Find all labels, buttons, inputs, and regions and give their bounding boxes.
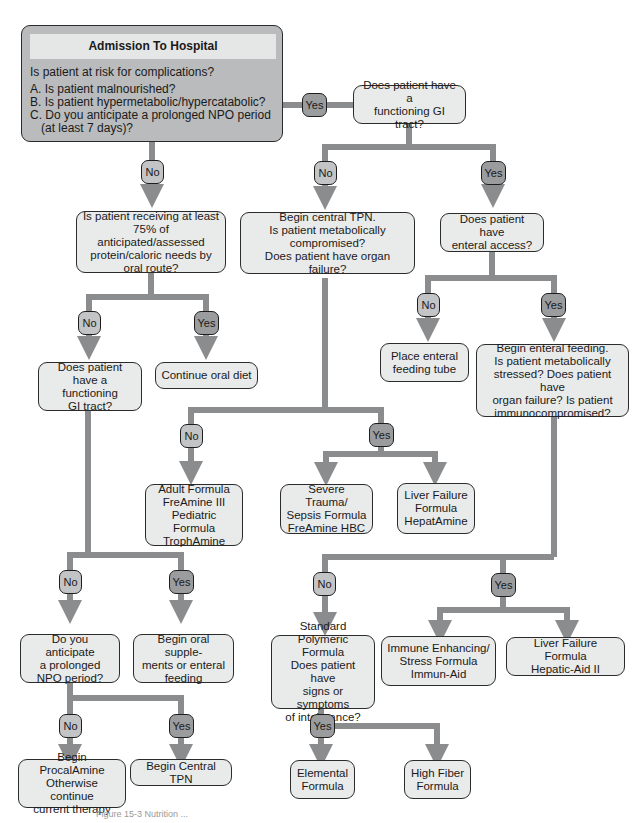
badge-no-gi-top: No	[314, 161, 337, 185]
badge-yes-central-tpn: Yes	[369, 423, 394, 447]
node-line: Does patient have a	[359, 79, 460, 105]
node-line: Continue oral diet	[161, 369, 251, 382]
node-procalamine: Begin ProcalAmine Otherwise continue cur…	[18, 759, 126, 808]
risk-question: Is patient at risk for complications?	[30, 66, 214, 79]
node-line: immunocompromised?	[494, 407, 610, 420]
badge-yes-enteral-access: Yes	[541, 293, 566, 317]
badge-yes-at-risk: Yes	[302, 93, 327, 117]
node-line: FreAmine III	[163, 496, 226, 509]
node-line: Begin oral supple-	[139, 633, 228, 659]
figure-caption: Figure 15-3 Nutrition ...	[96, 809, 188, 819]
node-line: Do you anticipate	[26, 633, 114, 659]
node-line: enteral access?	[452, 239, 533, 252]
badge-no-oral-75: No	[78, 311, 101, 335]
node-line: Pediatric Formula	[151, 509, 237, 535]
node-line: Place enteral	[391, 350, 458, 363]
badge-no-enteral-access: No	[417, 293, 440, 317]
node-central-tpn: Begin central TPN. Is patient metabolica…	[240, 212, 415, 274]
node-line: Standard Polymeric	[277, 620, 369, 646]
node-line: NPO period?	[37, 672, 103, 685]
node-continue-oral: Continue oral diet	[155, 362, 258, 389]
node-line: Does patient	[58, 361, 123, 374]
node-immune-enhancing: Immune Enhancing/ Stress Formula Immun-A…	[381, 636, 496, 686]
node-line: Does patient have	[446, 213, 538, 239]
node-line: GI tract?	[68, 400, 112, 413]
node-line: Hepatic-Aid II	[531, 663, 600, 676]
node-place-enteral-tube: Place enteral feeding tube	[380, 343, 469, 382]
node-line: Stress Formula	[400, 655, 478, 668]
node-line: Begin Central TPN	[136, 760, 226, 786]
badge-no-at-risk: No	[141, 160, 164, 184]
node-functioning-gi-top: Does patient have a functioning GI tract…	[353, 85, 466, 124]
node-line: oral route?	[124, 262, 179, 275]
admission-title: Admission To Hospital	[30, 34, 276, 59]
node-line: signs or symptoms	[277, 685, 369, 711]
node-line: TrophAmine	[163, 535, 225, 548]
risk-options: A. Is patient malnourished? B. Is patien…	[30, 83, 271, 135]
node-functioning-gi-left: Does patient have a functioning GI tract…	[38, 362, 142, 411]
node-line: Formula	[415, 502, 457, 515]
node-begin-central-tpn: Begin Central TPN	[130, 759, 232, 786]
node-line: Formula	[416, 780, 458, 793]
node-line: Severe Trauma/	[286, 483, 367, 509]
node-line: Sepsis Formula	[287, 509, 367, 522]
node-line: have a functioning	[44, 374, 136, 400]
badge-yes-enteral-stressed: Yes	[491, 573, 516, 597]
node-line: Immune Enhancing/	[387, 642, 489, 655]
node-line: ments or enteral	[142, 659, 225, 672]
node-line: Formula	[302, 646, 344, 659]
node-line: Is patient metabolically	[494, 355, 610, 368]
node-line: compromised?	[290, 237, 365, 250]
node-line: Begin enteral feeding.	[497, 342, 609, 355]
node-line: organ failure? Is patient	[492, 394, 612, 407]
node-line: High Fiber	[411, 767, 464, 780]
badge-yes-oral-75: Yes	[194, 311, 219, 335]
badge-yes-gi-top: Yes	[481, 161, 506, 185]
node-line: Elemental	[297, 767, 348, 780]
node-begin-enteral: Begin enteral feeding. Is patient metabo…	[476, 344, 629, 417]
node-line: Liver Failure Formula	[512, 637, 619, 663]
node-high-fiber-formula: High Fiber Formula	[404, 760, 471, 799]
node-line: FreAmine HBC	[288, 522, 365, 535]
node-oral-supplements: Begin oral supple- ments or enteral feed…	[133, 634, 234, 683]
node-line: stressed? Does patient have	[482, 368, 623, 394]
node-line: Adult Formula	[158, 483, 230, 496]
node-line: Does patient have organ failure?	[246, 250, 409, 276]
node-line: a prolonged	[40, 659, 101, 672]
badge-yes-intolerance: Yes	[310, 714, 335, 738]
node-line: Formula	[301, 780, 343, 793]
node-line: HepatAmine	[404, 515, 467, 528]
badge-no-central-tpn: No	[180, 424, 203, 448]
node-prolonged-npo: Do you anticipate a prolonged NPO period…	[20, 634, 120, 683]
node-liver-failure-hepatic-aid: Liver Failure Formula Hepatic-Aid II	[506, 637, 625, 676]
node-line: Is patient metabolically	[269, 224, 385, 237]
badge-yes-prolonged-npo: Yes	[169, 714, 194, 738]
node-line: Does patient have	[277, 659, 369, 685]
badge-no-prolonged-npo: No	[59, 714, 82, 738]
node-line: Immun-Aid	[411, 668, 467, 681]
node-standard-polymeric: Standard Polymeric Formula Does patient …	[271, 635, 375, 709]
node-oral-75: Is patient receiving at least 75% of ant…	[76, 211, 226, 273]
node-line: feeding tube	[393, 363, 456, 376]
node-line: protein/caloric needs by	[90, 249, 211, 262]
badge-yes-gi-left: Yes	[169, 570, 194, 594]
risk-option-c-cont: (at least 7 days)?	[30, 122, 271, 135]
node-adult-formula: Adult Formula FreAmine III Pediatric For…	[145, 484, 243, 546]
node-line: Begin ProcalAmine	[24, 751, 120, 777]
node-elemental-formula: Elemental Formula	[290, 760, 355, 799]
node-line: feeding	[165, 672, 203, 685]
admission-start-box: Admission To Hospital Is patient at risk…	[21, 25, 283, 142]
node-line: 75% of anticipated/assessed	[82, 223, 220, 249]
node-enteral-access: Does patient have enteral access?	[440, 213, 544, 252]
node-liver-failure-hepatamine: Liver Failure Formula HepatAmine	[397, 483, 475, 534]
node-severe-trauma: Severe Trauma/ Sepsis Formula FreAmine H…	[280, 484, 373, 534]
node-line: Is patient receiving at least	[83, 210, 219, 223]
badge-no-gi-left: No	[59, 570, 82, 594]
node-line: Begin central TPN.	[279, 211, 375, 224]
badge-no-enteral-stressed: No	[313, 572, 336, 596]
node-line: functioning GI tract?	[359, 105, 460, 131]
node-line: Liver Failure	[404, 489, 467, 502]
node-line: Otherwise continue	[24, 777, 120, 803]
